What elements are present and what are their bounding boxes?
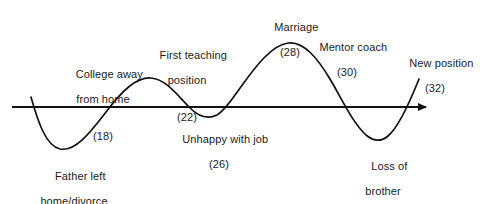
- event-line-1: New position: [409, 57, 473, 69]
- event-label-unhappy-with-job: Unhappy with job (26): [157, 121, 281, 195]
- event-label-loss-of-brother: Loss of brother (31): [345, 148, 421, 204]
- life-events-wave-diagram: Father left home/divorce (10) College aw…: [0, 0, 486, 204]
- event-line-1: Unhappy with job: [182, 133, 268, 145]
- event-line-1: Loss of: [371, 160, 407, 172]
- event-line-1: Father left: [55, 170, 106, 182]
- event-label-new-position: New position (32): [389, 45, 481, 119]
- event-line-1: Mentor coach: [319, 41, 387, 53]
- event-line-1: First teaching: [160, 49, 227, 61]
- event-age: (32): [389, 82, 481, 94]
- event-age: (30): [299, 66, 395, 78]
- event-line-2: home/divorce: [18, 195, 130, 204]
- event-age: (26): [157, 158, 281, 170]
- event-line-2: brother: [345, 185, 421, 197]
- event-label-mentor-coach: Mentor coach (30): [299, 29, 395, 103]
- event-line-2: position: [131, 74, 243, 86]
